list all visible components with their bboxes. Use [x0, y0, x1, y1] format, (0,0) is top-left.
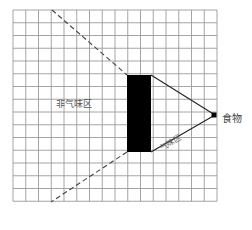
odor-zone-diagram: [0, 0, 252, 230]
non-odor-zone-label: 非气味区: [56, 97, 92, 110]
food-point: [212, 113, 217, 118]
grid: [13, 10, 217, 201]
solid-boundary-line: [151, 75, 215, 115]
dashed-boundary-line: [51, 152, 127, 202]
obstacle-block: [127, 75, 151, 152]
food-label: 食物: [222, 110, 242, 125]
